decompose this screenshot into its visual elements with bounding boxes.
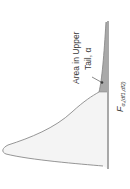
tail-annotation-line2: Tail, α bbox=[83, 48, 93, 70]
annotation-arrow bbox=[92, 77, 101, 82]
critical-value-subscript: α,(df1,df2) bbox=[120, 81, 126, 106]
arrow-head-icon bbox=[101, 81, 104, 84]
tail-annotation-line1: Area in Upper bbox=[71, 31, 81, 84]
f-distribution-diagram: Area in Upper Tail, α Fα,(df1,df2) bbox=[0, 0, 130, 189]
critical-value-label: Fα,(df1,df2) bbox=[115, 81, 126, 112]
